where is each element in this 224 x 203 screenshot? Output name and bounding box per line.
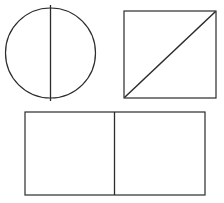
- figure-canvas: [0, 0, 224, 203]
- square-diagonal-line: [125, 12, 215, 97]
- circle-with-diameter-group: [6, 5, 96, 101]
- shapes-drawing: [0, 0, 224, 203]
- square-with-diagonal-group: [124, 11, 216, 98]
- rectangle-with-divider-group: [25, 112, 205, 195]
